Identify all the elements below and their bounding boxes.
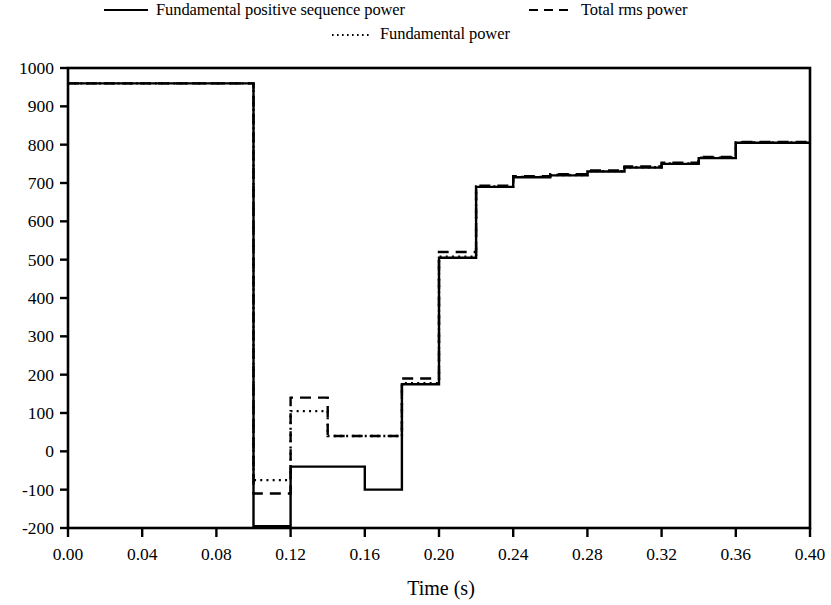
- x-tick-label: 0.36: [720, 544, 751, 564]
- y-tick-label: 600: [28, 211, 55, 231]
- x-tick-label: 0.00: [53, 544, 84, 564]
- x-tick-label: 0.04: [127, 544, 158, 564]
- y-tick-label: 500: [28, 250, 55, 270]
- y-tick-label: 1000: [19, 58, 54, 78]
- x-tick-label: 0.40: [795, 544, 826, 564]
- figure: Fundamental positive sequence power Tota…: [0, 0, 831, 605]
- y-tick-label: -100: [22, 480, 54, 500]
- x-tick-label: 0.08: [201, 544, 232, 564]
- y-axis-tick-labels: 10009008007006005004003002001000-100-200: [19, 58, 54, 538]
- x-tick-label: 0.16: [349, 544, 380, 564]
- y-tick-label: 0: [45, 441, 54, 461]
- y-tick-label: 700: [28, 173, 55, 193]
- x-axis-title: Time (s): [407, 577, 475, 600]
- x-axis-tick-labels: 0.000.040.080.120.160.200.240.280.320.36…: [53, 544, 826, 564]
- x-tick-label: 0.20: [424, 544, 455, 564]
- y-tick-label: 300: [28, 326, 55, 346]
- y-tick-label: 400: [28, 288, 55, 308]
- series-line-dashed: [68, 83, 810, 493]
- axis-ticks: [60, 68, 810, 537]
- chart-plot-area: 10009008007006005004003002001000-100-200…: [0, 0, 831, 605]
- x-tick-label: 0.12: [275, 544, 306, 564]
- y-tick-label: 800: [28, 135, 55, 155]
- y-tick-label: 900: [28, 96, 55, 116]
- x-tick-label: 0.24: [498, 544, 529, 564]
- y-tick-label: 100: [28, 403, 55, 423]
- x-tick-label: 0.32: [646, 544, 677, 564]
- data-series-group: [68, 83, 810, 526]
- x-tick-label: 0.28: [572, 544, 603, 564]
- y-tick-label: -200: [22, 518, 54, 538]
- y-tick-label: 200: [28, 365, 55, 385]
